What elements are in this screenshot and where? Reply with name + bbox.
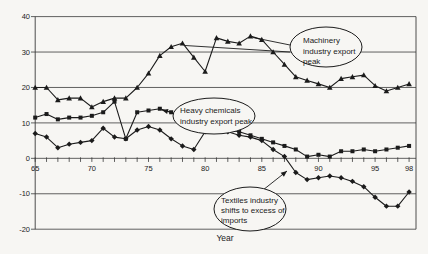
callout-text-line-0: Textiles industry (221, 196, 278, 205)
callout-text-line-1: industry export peak (180, 117, 253, 126)
line-chart-canvas: -20-100102030406570758085909598Machinery… (0, 0, 428, 254)
callout-text-line-0: Machinery (303, 36, 340, 45)
square-marker (396, 146, 400, 150)
callout-text-line-0: Heavy chemicals (180, 106, 240, 115)
square-marker (90, 114, 94, 118)
square-marker (294, 147, 298, 151)
x-tick-label-65: 65 (31, 164, 39, 173)
square-marker (56, 117, 60, 121)
x-tick-label-90: 90 (314, 164, 322, 173)
square-marker (67, 116, 71, 120)
square-marker (350, 149, 354, 153)
callout-text-line-1: shifts to excess of (221, 206, 285, 215)
square-marker (328, 155, 332, 159)
square-marker (384, 147, 388, 151)
export-share-chart-figure: -20-100102030406570758085909598Machinery… (0, 0, 428, 254)
square-marker (33, 116, 37, 120)
y-axis-label-40: 40 (22, 12, 30, 21)
x-tick-label-98: 98 (405, 164, 413, 173)
square-marker (339, 149, 343, 153)
square-marker (305, 155, 309, 159)
x-tick-label-70: 70 (88, 164, 96, 173)
square-marker (407, 144, 411, 148)
x-tick-label-85: 85 (258, 164, 266, 173)
square-marker (362, 147, 366, 151)
y-axis-label-10: 10 (22, 119, 30, 128)
square-marker (158, 107, 162, 111)
callout-text-line-1: industry export (303, 47, 356, 56)
y-axis-label-30: 30 (22, 48, 30, 57)
square-marker (282, 144, 286, 148)
square-marker (79, 116, 83, 120)
y-axis-label--20: -20 (19, 225, 30, 234)
square-marker (135, 110, 139, 114)
x-tick-label-95: 95 (371, 164, 379, 173)
square-marker (147, 108, 151, 112)
square-marker (373, 149, 377, 153)
square-marker (101, 110, 105, 114)
callout-ellipse (173, 98, 255, 134)
square-marker (271, 140, 275, 144)
square-marker (316, 153, 320, 157)
y-axis-label-0: 0 (26, 154, 30, 163)
callout-text-line-2: peak (303, 57, 321, 66)
y-axis-label--10: -10 (19, 189, 30, 198)
callout-text-line-2: imports (221, 216, 247, 225)
square-marker (45, 112, 49, 116)
y-axis-label-20: 20 (22, 83, 30, 92)
x-tick-label-80: 80 (201, 164, 209, 173)
x-tick-label-75: 75 (144, 164, 152, 173)
x-axis-title: Year (216, 233, 233, 243)
square-marker (113, 100, 117, 104)
